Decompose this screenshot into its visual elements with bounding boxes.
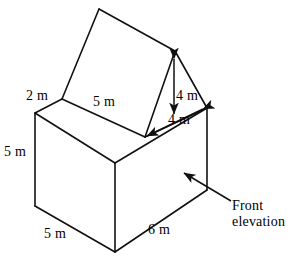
annotation-front-elevation-line1: Front — [232, 198, 263, 213]
dimension-label-5m-bottom: 5 m — [44, 226, 66, 242]
dimension-label-6m-bottom: 6 m — [148, 222, 170, 238]
dimension-label-4m-vertical: 4 m — [176, 88, 198, 104]
dimension-label-5m-roof: 5 m — [93, 94, 115, 110]
dimension-label-2m-eaves: 2 m — [26, 88, 48, 104]
dimension-label-4m-diagonal: 4 m — [168, 112, 190, 128]
solid-faces — [35, 9, 207, 252]
annotation-front-elevation-line2: elevation — [232, 214, 285, 229]
figure-container: 2 m 5 m 5 m 5 m 6 m 4 m 4 m Front elevat… — [0, 0, 291, 264]
dimension-label-5m-left-height: 5 m — [4, 144, 26, 160]
annotation-front-elevation: Front elevation — [232, 198, 290, 229]
